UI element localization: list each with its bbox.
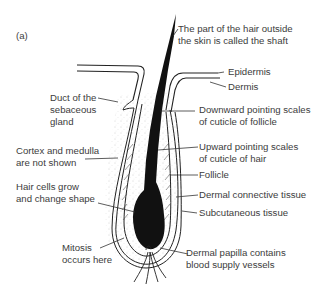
label-dermal-papilla: Dermal papilla contains blood supply ves… [186,247,286,271]
label-sebaceous-duct: Duct of the sebaceous gland [50,92,96,128]
label-mitosis-line1: Mitosis [62,242,112,254]
label-dermis: Dermis [228,81,258,93]
label-shaft: The part of the hair outside the skin is… [178,23,293,47]
label-duct-line1: Duct of the [50,92,96,104]
label-duct-line2: sebaceous [50,104,96,116]
label-papilla-line2: blood supply vessels [186,259,286,271]
label-hair-cells-line2: and change shape [16,193,95,205]
label-cortex-medulla: Cortex and medulla are not shown [16,145,99,169]
label-hair-cells-line1: Hair cells grow [16,181,95,193]
label-papilla-line1: Dermal papilla contains [186,247,286,259]
label-mitosis-line2: occurs here [62,254,112,266]
label-upward-scales: Upward pointing scales of cuticle of hai… [199,141,298,165]
label-mitosis: Mitosis occurs here [62,242,112,266]
label-hair-cells: Hair cells grow and change shape [16,181,95,205]
label-duct-line3: gland [50,116,96,128]
label-cortex-line2: are not shown [16,157,99,169]
panel-label: (a) [16,30,28,42]
label-epidermis: Epidermis [228,66,271,78]
label-downward-line2: of cuticle of follicle [199,116,310,128]
label-shaft-line1: The part of the hair outside [178,23,293,35]
label-upward-line1: Upward pointing scales [199,141,298,153]
label-dermal-connective: Dermal connective tissue [199,189,306,201]
label-cortex-line1: Cortex and medulla [16,145,99,157]
label-upward-line2: of cuticle of hair [199,153,298,165]
label-subcutaneous: Subcutaneous tissue [199,207,288,219]
label-follicle: Follicle [199,169,229,181]
label-downward-line1: Downward pointing scales [199,104,310,116]
label-downward-scales: Downward pointing scales of cuticle of f… [199,104,310,128]
label-shaft-line2: the skin is called the shaft [178,35,293,47]
